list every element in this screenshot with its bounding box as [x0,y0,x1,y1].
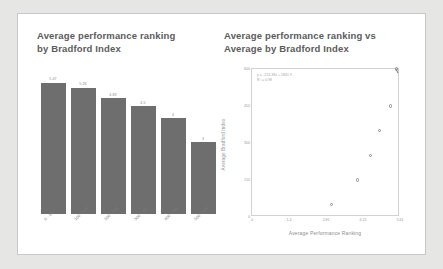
scatter-x-tick-label: 4.21 [360,218,367,222]
bar-column: 4.83 [101,70,126,214]
bar-column: 3 [191,70,216,214]
scatter-x-tick-label: 1.4 [286,218,291,222]
scatter-y-axis-label: Average Bradford Index [221,119,226,171]
scatter-y-tick-label: 0 [248,215,250,219]
bar-plot-area: 5.470 - 995.26100 - 1994.83200 - 2994.53… [38,70,218,214]
scatter-point [395,67,398,70]
trendline [252,69,398,215]
bar-rect [131,106,156,214]
scatter-plot-area: y = -224.38x + 1841.9 R² = 0.98 60045030… [251,68,399,216]
bar-chart: 5.470 - 995.26100 - 1994.83200 - 2994.53… [32,62,218,248]
bar-value-label: 4.5 [140,101,145,105]
bar-rect [71,88,96,214]
bar-rect [191,142,216,214]
scatter-y-tick-label: 300 [244,141,250,145]
scatter-point [330,203,333,206]
scatter-y-tick-label: 600 [244,67,250,71]
bar-value-label: 5.26 [79,82,86,86]
bar-rect [161,118,186,214]
bar-rect [41,83,66,214]
scatter-x-axis-label: Average Performance Ranking [251,230,399,236]
bar-value-label: 5.47 [49,77,56,81]
bar-value-label: 4 [172,113,174,117]
bar-chart-title: Average performance ranking by Bradford … [37,30,175,55]
slide-background: Average performance ranking by Bradford … [0,0,443,269]
scatter-x-tick-label: 0 [251,218,253,222]
bar-column: 5.26 [71,70,96,214]
bar-value-label: 3 [202,137,204,141]
scatter-y-tick-label: 450 [244,104,250,108]
chart-panel: Average performance ranking by Bradford … [17,13,426,255]
bar-rect [101,98,126,214]
bar-column: 4 [161,70,186,214]
bar-column: 5.47 [41,70,66,214]
scatter-x-tick-label: 5.61 [397,218,404,222]
bar-column: 4.5 [131,70,156,214]
bar-value-label: 4.83 [109,93,116,97]
scatter-point [356,178,359,181]
scatter-y-tick-label: 150 [244,178,250,182]
scatter-chart: y = -224.38x + 1841.9 R² = 0.98 60045030… [221,62,421,252]
scatter-chart-title: Average performance ranking vs Average b… [224,30,376,55]
scatter-x-tick-label: 2.81 [323,218,330,222]
